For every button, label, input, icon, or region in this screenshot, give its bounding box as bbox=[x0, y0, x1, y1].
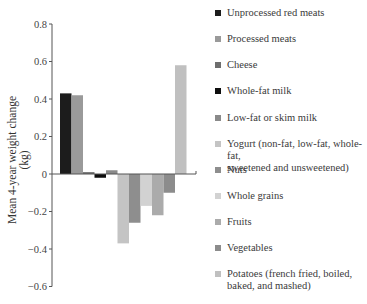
legend-item: Nuts bbox=[215, 164, 247, 176]
legend-item: Low-fat or skim milk bbox=[215, 112, 317, 124]
legend-label: Low-fat or skim milk bbox=[227, 112, 317, 124]
legend-label: Potatoes (french fried, boiled,baked, an… bbox=[227, 268, 352, 292]
legend-label: Whole-fat milk bbox=[227, 85, 291, 97]
bar bbox=[141, 174, 153, 206]
bar bbox=[60, 93, 72, 174]
y-axis: 0.80.60.40.20−0.2−0.4−0.6 bbox=[28, 19, 52, 293]
legend-item: Processed meats bbox=[215, 33, 296, 45]
legend-swatch bbox=[215, 271, 221, 277]
legend-label: Fruits bbox=[227, 216, 252, 228]
y-tick-label: 0.4 bbox=[34, 94, 48, 105]
legend-label: Whole grains bbox=[227, 190, 283, 202]
y-tick-label: 0 bbox=[42, 169, 47, 180]
legend-label: Nuts bbox=[227, 164, 247, 176]
bar bbox=[95, 174, 107, 178]
y-axis-label: Mean 4-year weight change (kg) bbox=[6, 90, 30, 230]
legend-swatch bbox=[215, 10, 221, 16]
y-tick-label: 0.2 bbox=[34, 131, 47, 142]
legend-label: Processed meats bbox=[227, 33, 296, 45]
y-tick-label: 0.6 bbox=[34, 56, 47, 67]
legend-swatch bbox=[215, 219, 221, 225]
legend-label: Unprocessed red meats bbox=[227, 7, 324, 19]
legend-swatch bbox=[215, 141, 221, 147]
legend-item: Vegetables bbox=[215, 242, 272, 254]
bar bbox=[106, 170, 118, 174]
y-tick-label: −0.6 bbox=[28, 281, 47, 292]
bar bbox=[152, 174, 164, 215]
y-tick-label: 0.8 bbox=[34, 19, 47, 30]
legend-item: Potatoes (french fried, boiled,baked, an… bbox=[215, 268, 352, 292]
bar bbox=[118, 174, 130, 243]
legend-swatch bbox=[215, 36, 221, 42]
legend-item: Fruits bbox=[215, 216, 252, 228]
y-tick-label: −0.4 bbox=[28, 244, 48, 255]
legend-item: Whole grains bbox=[215, 190, 283, 202]
legend-item: Whole-fat milk bbox=[215, 85, 291, 97]
bar bbox=[129, 174, 141, 223]
legend-swatch bbox=[215, 245, 221, 251]
bar bbox=[175, 65, 187, 174]
legend-label: Vegetables bbox=[227, 242, 272, 254]
legend-swatch bbox=[215, 62, 221, 68]
legend-item: Unprocessed red meats bbox=[215, 7, 324, 19]
legend-swatch bbox=[215, 193, 221, 199]
legend-swatch bbox=[215, 88, 221, 94]
y-tick-label: −0.2 bbox=[28, 206, 47, 217]
legend-label: Cheese bbox=[227, 59, 257, 71]
bar bbox=[72, 95, 84, 174]
legend-swatch bbox=[215, 167, 221, 173]
bars bbox=[60, 65, 187, 243]
legend-swatch bbox=[215, 115, 221, 121]
legend-label: Yogurt (non-fat, low-fat, whole-fat,swee… bbox=[227, 138, 367, 174]
legend-item: Cheese bbox=[215, 59, 257, 71]
bar bbox=[164, 174, 176, 193]
